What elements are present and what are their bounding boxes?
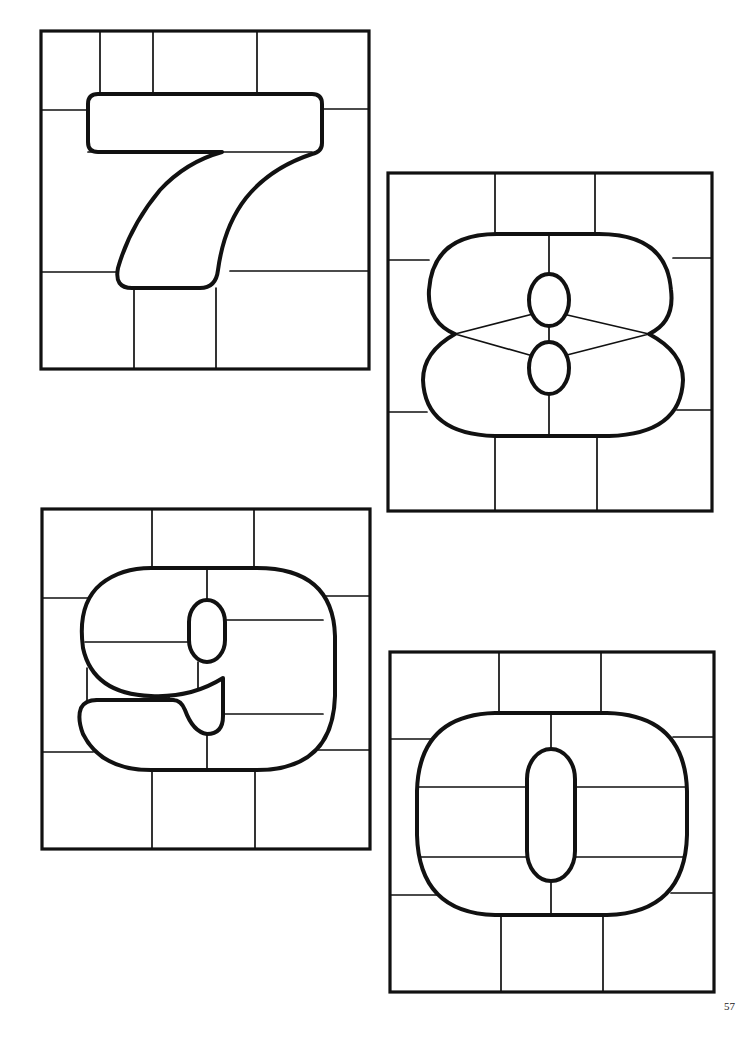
panel-digit-9: Stained glass pattern - digit 9 [41,508,371,850]
digit-8-pattern: Stained glass pattern - digit 8 [387,172,713,512]
digit-7-pattern: Stained glass pattern - digit 7 [40,30,370,370]
digit-0-pattern: Stained glass pattern - digit 0 [389,651,715,993]
digit-9-pattern: Stained glass pattern - digit 9 [41,508,371,850]
panel-digit-0: Stained glass pattern - digit 0 [389,651,715,993]
panel-digit-8: Stained glass pattern - digit 8 [387,172,713,512]
panel-digit-7: Stained glass pattern - digit 7 [40,30,370,370]
page-number: 57 [724,1000,735,1012]
